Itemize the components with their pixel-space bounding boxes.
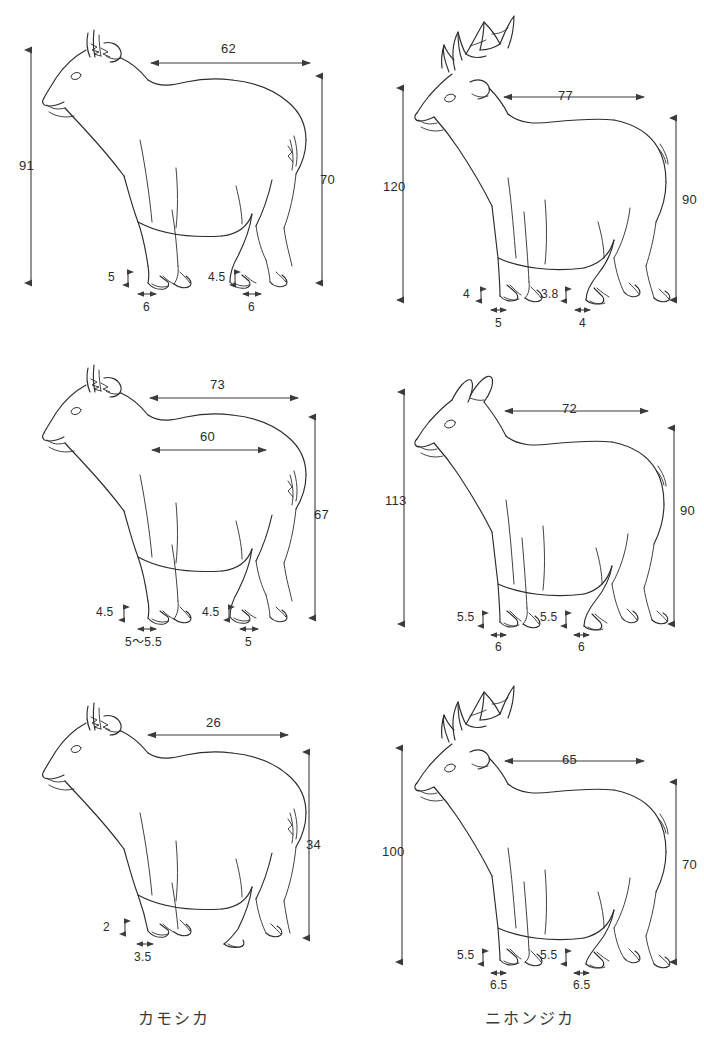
figure-canvas xyxy=(0,0,704,1053)
panel-serow-adult-drawing xyxy=(43,30,306,289)
caption-serow: カモシカ xyxy=(138,1005,210,1029)
dim-label-p4-hind-hoof-height: 5.5 xyxy=(540,611,558,623)
dim-label-p2-shoulder-height: 90 xyxy=(682,193,697,206)
dim-label-p5-front-hoof-width: 3.5 xyxy=(134,951,152,963)
dim-label-p4-hind-hoof-width: 6 xyxy=(578,641,585,653)
dim-label-p1-body-length: 62 xyxy=(221,42,236,55)
dim-label-p3-front-hoof-width: 5～5.5 xyxy=(125,636,162,648)
dim-label-p2-total-height: 120 xyxy=(383,180,406,193)
dim-label-p3-body-length-lower: 60 xyxy=(200,430,215,443)
dim-label-p4-total-height: 113 xyxy=(385,494,407,507)
dim-label-p3-front-hoof-height: 4.5 xyxy=(96,606,114,618)
dim-label-p6-front-hoof-height: 5.5 xyxy=(457,949,475,961)
figure-sheet: 91 62 70 5 6 4.5 6 120 77 90 4 5 3.8 4 7… xyxy=(0,0,704,1053)
dim-label-p4-shoulder-height: 90 xyxy=(680,504,695,517)
panel-deer-hind-drawing xyxy=(415,376,668,630)
dim-label-p3-shoulder-height: 67 xyxy=(314,508,329,521)
dim-p6-hoofs xyxy=(483,951,589,973)
dim-label-p1-front-hoof-height: 5 xyxy=(108,271,115,283)
dim-label-p1-hind-hoof-height: 4.5 xyxy=(208,271,226,283)
dim-label-p3-hind-hoof-width: 5 xyxy=(245,636,252,648)
dim-label-p2-hind-hoof-height: 3.8 xyxy=(541,288,559,300)
dim-label-p4-front-hoof-width: 6 xyxy=(495,641,502,653)
panel-serow-sub-drawing xyxy=(43,365,306,624)
dim-label-p5-body-length: 26 xyxy=(206,716,221,729)
dim-label-p3-body-length-upper: 73 xyxy=(210,378,225,391)
dim-label-p2-front-hoof-height: 4 xyxy=(463,288,470,300)
dim-label-p5-front-hoof-height: 2 xyxy=(103,921,110,933)
dim-label-p6-hind-hoof-width: 6.5 xyxy=(573,979,591,991)
dim-label-p5-shoulder-height: 34 xyxy=(306,838,321,851)
panel-deer-stag2-drawing xyxy=(415,686,670,968)
dim-label-p1-total-height: 91 xyxy=(19,159,34,172)
dim-label-p1-shoulder-height: 70 xyxy=(320,173,335,186)
dim-label-p2-front-hoof-width: 5 xyxy=(495,317,502,329)
caption-sika-deer: ニホンジカ xyxy=(485,1005,575,1029)
dim-label-p2-hind-hoof-width: 4 xyxy=(579,317,586,329)
dim-label-p6-body-length: 65 xyxy=(562,753,577,766)
dim-label-p6-shoulder-height: 70 xyxy=(682,858,697,871)
dim-label-p4-body-length: 72 xyxy=(562,402,577,415)
dim-label-p6-total-height: 100 xyxy=(382,845,405,858)
dim-label-p4-front-hoof-height: 5.5 xyxy=(457,611,475,623)
panel-serow-young-drawing xyxy=(43,703,306,947)
dim-label-p3-hind-hoof-height: 4.5 xyxy=(202,606,220,618)
panel-deer-stag-drawing xyxy=(415,16,670,304)
dim-label-p1-front-hoof-width: 6 xyxy=(143,301,150,313)
dim-label-p2-body-length: 77 xyxy=(558,89,573,102)
dim-label-p1-hind-hoof-width: 6 xyxy=(248,301,255,313)
dim-label-p6-hind-hoof-height: 5.5 xyxy=(540,949,558,961)
dim-label-p6-front-hoof-width: 6.5 xyxy=(490,979,508,991)
